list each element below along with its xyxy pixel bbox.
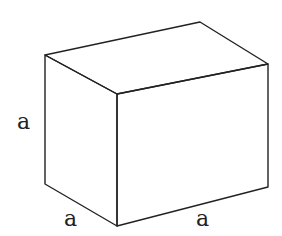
top-face [45, 22, 268, 94]
depth-label: a [64, 206, 77, 231]
width-label: a [196, 206, 209, 231]
front-face [117, 64, 268, 226]
prism-diagram: a a a [0, 0, 282, 236]
height-label: a [17, 109, 30, 134]
left-face [45, 55, 117, 226]
